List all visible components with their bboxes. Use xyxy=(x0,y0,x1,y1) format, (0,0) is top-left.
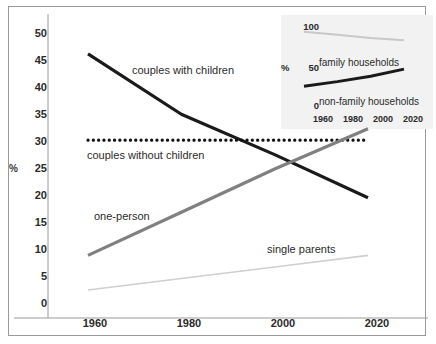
y-tick-45: 45 xyxy=(23,54,47,66)
y-tick-40: 40 xyxy=(23,81,47,93)
series-label-one-person: one-person xyxy=(94,210,150,222)
series-label-single-parents: single parents xyxy=(267,243,336,255)
y-tick-30: 30 xyxy=(23,135,47,147)
x-tick-2020: 2020 xyxy=(347,317,407,329)
y-axis-title: % xyxy=(9,163,18,174)
x-tick-1980: 1980 xyxy=(159,317,219,329)
y-tick-0: 0 xyxy=(23,297,47,309)
inset-y-tick-50: 50 xyxy=(291,62,319,73)
chart-frame: 50 45 40 35 30 25 20 15 10 5 0 % 1960 19… xyxy=(8,6,426,336)
inset-y-tick-100: 100 xyxy=(291,21,319,32)
y-tick-5: 5 xyxy=(23,270,47,282)
inset-series-label-family-households: family households xyxy=(319,57,399,68)
y-tick-25: 25 xyxy=(23,162,47,174)
inset-series-label-non-family-households: non-family households xyxy=(319,96,419,107)
y-tick-10: 10 xyxy=(23,243,47,255)
y-tick-20: 20 xyxy=(23,189,47,201)
inset-y-axis-title: % xyxy=(281,62,289,73)
y-tick-50: 50 xyxy=(23,27,47,39)
x-tick-1960: 1960 xyxy=(65,317,125,329)
y-tick-15: 15 xyxy=(23,216,47,228)
inset-chart-panel: 100 50 0 % 1960 1980 2000 2020 family ho… xyxy=(281,15,433,129)
inset-x-tick-2020: 2020 xyxy=(395,114,431,124)
series-label-couples-without-children: couples without children xyxy=(87,149,204,161)
inset-y-tick-0: 0 xyxy=(291,100,319,111)
y-tick-35: 35 xyxy=(23,108,47,120)
x-tick-2000: 2000 xyxy=(253,317,313,329)
series-label-couples-with-children: couples with children xyxy=(132,64,234,76)
